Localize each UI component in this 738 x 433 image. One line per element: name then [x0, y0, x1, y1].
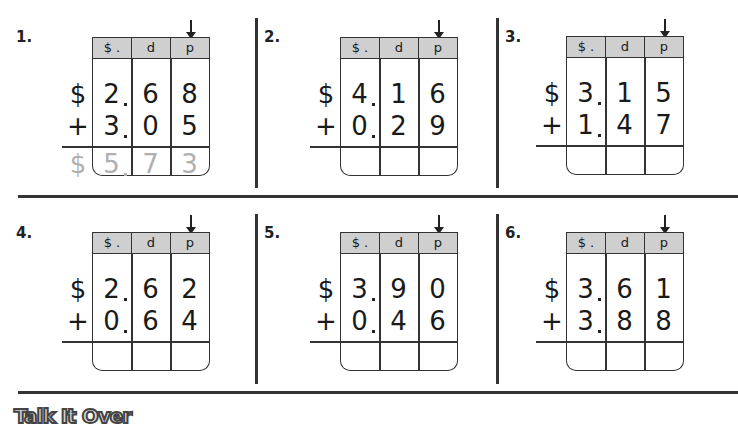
sum-line — [310, 341, 458, 343]
answer-cell[interactable] — [605, 148, 644, 180]
addend2-digit[interactable]: 6 — [418, 306, 457, 336]
plus-sign: + — [315, 111, 337, 141]
column-header: $ . — [567, 37, 606, 57]
decimal-point — [598, 298, 601, 301]
decimal-point — [598, 330, 601, 333]
decimal-point — [598, 102, 601, 105]
addend2-digit[interactable]: 8 — [644, 306, 683, 336]
addend2-digit[interactable]: 4 — [605, 110, 644, 140]
column-header: d — [380, 38, 419, 58]
column-header: p — [645, 37, 683, 57]
dollar-sign: $ — [541, 274, 563, 304]
answer-cell[interactable] — [644, 344, 683, 376]
talk-it-over-heading: Talk It Over — [14, 404, 131, 428]
sum-line — [310, 146, 458, 148]
problem-number: 1. — [16, 28, 32, 46]
column-header: p — [419, 38, 457, 58]
column-header: $ . — [567, 233, 606, 253]
sum-line — [536, 145, 684, 147]
problem-number: 6. — [505, 224, 521, 242]
addend1-digit: 6 — [605, 274, 644, 304]
answer-cell[interactable] — [418, 149, 457, 181]
place-value-grid: $ .dp311457 — [566, 36, 684, 176]
answer-cell[interactable] — [340, 149, 379, 181]
grid-header: $ .dp — [92, 232, 210, 254]
place-value-grid: $ .dp401269 — [340, 37, 458, 177]
answer-cell[interactable] — [379, 344, 418, 376]
addend2-digit[interactable]: 6 — [131, 306, 170, 336]
answer-cell[interactable] — [566, 344, 605, 376]
decimal-point — [372, 135, 375, 138]
answer-cell[interactable]: 5 — [92, 149, 131, 181]
answer-cell[interactable] — [644, 148, 683, 180]
dollar-sign: $ — [315, 79, 337, 109]
column-header: d — [606, 233, 645, 253]
place-value-grid: $ .dp309406 — [340, 232, 458, 372]
answer-cell[interactable] — [92, 344, 131, 376]
problem-6: 6.$ .dp336818$+ — [499, 214, 738, 394]
answer-cell[interactable] — [566, 148, 605, 180]
grid-header: $ .dp — [340, 37, 458, 59]
addend2-digit[interactable]: 7 — [644, 110, 683, 140]
problem-number: 2. — [264, 28, 280, 46]
column-header: $ . — [341, 233, 380, 253]
grid-header: $ .dp — [566, 36, 684, 58]
answer-cell[interactable] — [418, 344, 457, 376]
addend1-digit: 6 — [131, 274, 170, 304]
answer-cell[interactable] — [170, 344, 209, 376]
sum-line — [62, 146, 210, 148]
decimal-point — [372, 330, 375, 333]
addend2-digit[interactable]: 0 — [131, 111, 170, 141]
plus-sign: + — [541, 110, 563, 140]
place-value-grid: $ .dp235607853 — [92, 37, 210, 177]
problem-4: 4.$ .dp206624$+ — [10, 214, 250, 394]
place-value-grid: $ .dp336818 — [566, 232, 684, 372]
dollar-sign: $ — [541, 78, 563, 108]
decimal-point — [124, 103, 127, 106]
answer-cell[interactable] — [131, 344, 170, 376]
decimal-point — [124, 330, 127, 333]
column-header: p — [645, 233, 683, 253]
grid-header: $ .dp — [566, 232, 684, 254]
down-arrow-icon — [438, 20, 440, 34]
answer-cell[interactable] — [379, 149, 418, 181]
addend2-digit[interactable]: 9 — [418, 111, 457, 141]
decimal-point — [124, 135, 127, 138]
problem-number: 4. — [16, 224, 32, 242]
problem-number: 3. — [505, 28, 521, 46]
grid-header: $ .dp — [340, 232, 458, 254]
column-header: $ . — [93, 233, 132, 253]
addend2-digit[interactable]: 5 — [170, 111, 209, 141]
plus-sign: + — [67, 306, 89, 336]
addend2-digit[interactable]: 8 — [605, 306, 644, 336]
answer-cell[interactable]: 7 — [131, 149, 170, 181]
answer-cell[interactable] — [605, 344, 644, 376]
addend2-digit[interactable]: 4 — [170, 306, 209, 336]
problem-1: 1.$ .dp235607853$+$ — [10, 18, 250, 198]
plus-sign: + — [67, 111, 89, 141]
problem-3: 3.$ .dp311457$+ — [499, 18, 738, 198]
decimal-point — [124, 298, 127, 301]
dollar-sign: $ — [315, 274, 337, 304]
addend2-digit[interactable]: 4 — [379, 306, 418, 336]
column-header: p — [419, 233, 457, 253]
sum-line — [536, 341, 684, 343]
column-header: d — [380, 233, 419, 253]
addend1-digit: 1 — [644, 274, 683, 304]
answer-cell[interactable]: 3 — [170, 149, 209, 181]
column-header: p — [171, 38, 209, 58]
answer-cell[interactable] — [340, 344, 379, 376]
addend1-digit: 2 — [170, 274, 209, 304]
addend1-digit: 1 — [605, 78, 644, 108]
down-arrow-icon — [664, 19, 666, 33]
decimal-point — [598, 134, 601, 137]
column-header: $ . — [93, 38, 132, 58]
down-arrow-icon — [190, 20, 192, 34]
decimal-point — [372, 103, 375, 106]
problem-2: 2.$ .dp401269$+ — [258, 18, 498, 198]
down-arrow-icon — [664, 215, 666, 229]
place-value-grid: $ .dp206624 — [92, 232, 210, 372]
down-arrow-icon — [438, 215, 440, 229]
column-header: d — [606, 37, 645, 57]
addend2-digit[interactable]: 2 — [379, 111, 418, 141]
